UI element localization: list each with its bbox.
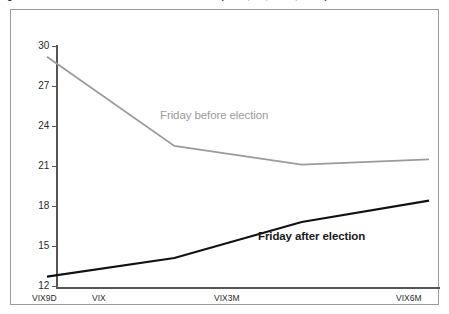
series-line-friday-after-election: [47, 201, 429, 277]
figure-caption-text: Figure 1. VIX term structure around rece…: [0, 0, 449, 2]
figure-caption: Figure 1. VIX term structure around rece…: [0, 0, 449, 3]
annotation-friday-after-election: Friday after election: [258, 230, 365, 242]
chart-series-svg: [11, 10, 440, 306]
annotation-friday-before-election: Friday before election: [160, 109, 268, 121]
chart-figure-frame: 30 27 24 21 18 15 12 VIX9D VIX VIX3M VIX…: [10, 9, 439, 305]
